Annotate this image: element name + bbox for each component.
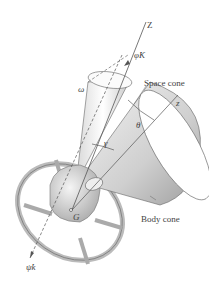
label-omega: ω bbox=[78, 84, 84, 94]
label-body-cone: Body cone bbox=[141, 214, 180, 224]
label-theta: θ bbox=[136, 120, 140, 130]
label-z-body: z bbox=[176, 98, 180, 108]
label-z-axis: Z bbox=[147, 20, 153, 30]
label-spin: ψ̇k bbox=[26, 262, 36, 272]
label-gamma: γ bbox=[104, 138, 108, 148]
label-center-g: G bbox=[73, 212, 80, 222]
label-precession: φ̇K bbox=[134, 50, 145, 60]
label-space-cone: Space cone bbox=[144, 78, 185, 88]
